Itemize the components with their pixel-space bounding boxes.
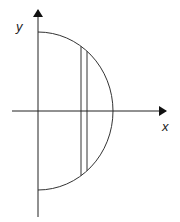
diagram-canvas: y x xyxy=(0,0,180,222)
y-axis-label: y xyxy=(15,19,24,34)
x-axis-label: x xyxy=(161,119,169,134)
